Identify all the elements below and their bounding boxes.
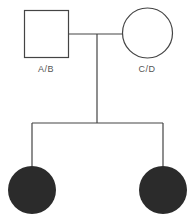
father-square [25, 11, 69, 58]
mother-circle [123, 8, 173, 58]
child-2-affected-circle [139, 166, 187, 214]
father-genotype-label: A/B [21, 64, 71, 74]
child-1-affected-circle [8, 166, 56, 214]
pedigree-diagram [0, 0, 195, 222]
mother-genotype-label: C/D [122, 64, 172, 74]
